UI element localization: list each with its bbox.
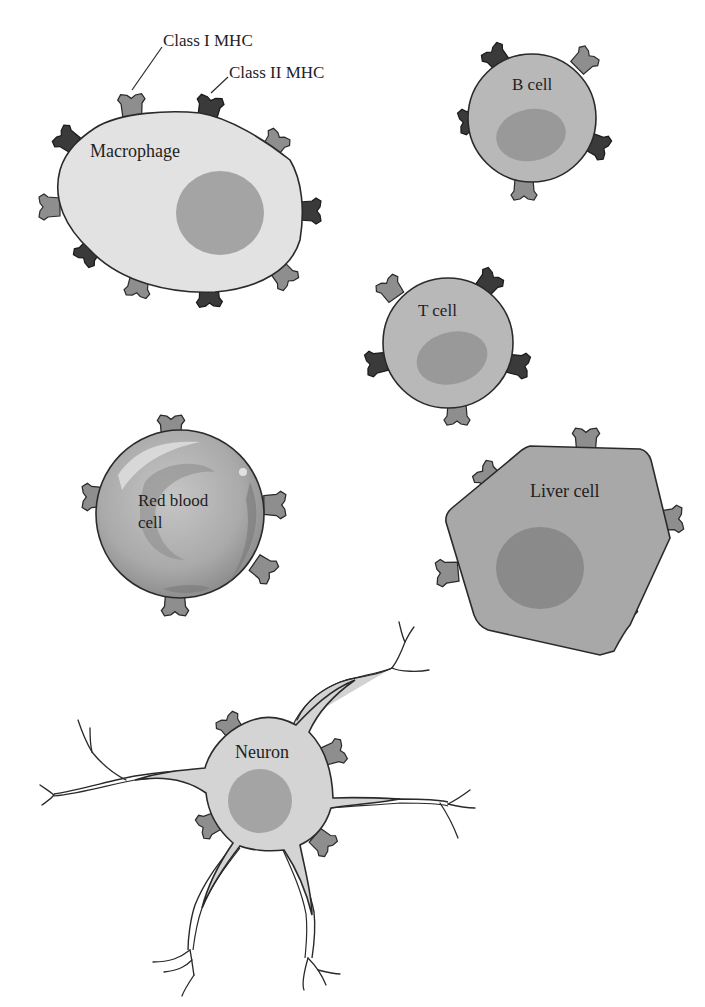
rbc-highlight-dot	[239, 468, 247, 476]
liver-cell: Liver cell	[435, 428, 684, 655]
class1-mhc-label: Class I MHC	[163, 31, 253, 50]
neuron-nucleus	[228, 769, 292, 833]
class2-leader-line	[211, 77, 228, 93]
class2-mhc-icon	[300, 198, 321, 224]
red-blood-cell: Red blood cell	[82, 415, 286, 616]
mhc-distribution-diagram: Class I MHC Class II MHC Macrophage B ce…	[0, 0, 705, 1007]
legend: Class I MHC Class II MHC	[132, 31, 324, 93]
liver-cell-label: Liver cell	[530, 481, 599, 501]
t-cell-label: T cell	[418, 301, 457, 320]
class2-mhc-label: Class II MHC	[229, 63, 324, 82]
liver-cell-nucleus	[496, 527, 584, 609]
t-cell: T cell	[364, 266, 531, 425]
b-cell-label: B cell	[512, 75, 552, 94]
class1-mhc-icon	[264, 491, 286, 518]
b-cell: B cell	[457, 41, 613, 200]
macrophage-label: Macrophage	[90, 141, 180, 161]
macrophage-nucleus	[176, 171, 264, 255]
red-blood-cell-membrane	[96, 430, 264, 598]
neuron: Neuron	[40, 622, 475, 996]
class1-leader-line	[132, 47, 162, 90]
macrophage-cell: Macrophage	[39, 93, 321, 307]
rbc-label-line1: Red blood	[138, 491, 209, 510]
rbc-label-line2: cell	[138, 513, 163, 532]
class1-mhc-icon	[39, 194, 60, 220]
neuron-label: Neuron	[235, 742, 289, 762]
class1-mhc-icon	[435, 558, 459, 587]
